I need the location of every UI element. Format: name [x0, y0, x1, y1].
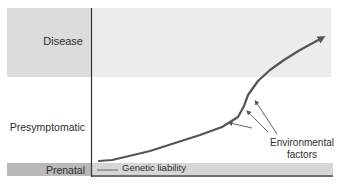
environmental-factors-line-1: Environmental [267, 137, 337, 149]
environmental-arrow-1 [230, 123, 252, 128]
environmental-arrow-3 [256, 102, 277, 134]
genetic-liability-label: Genetic liability [122, 162, 186, 173]
environmental-factors-label: Environmental factors [267, 137, 337, 161]
environmental-factors-line-2: factors [267, 149, 337, 161]
